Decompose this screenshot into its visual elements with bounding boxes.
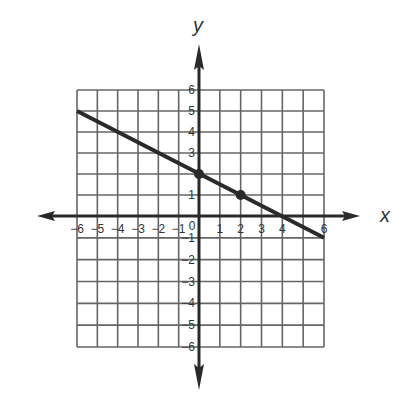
x-tick-label: 2 (237, 222, 244, 236)
y-axis-label: y (191, 14, 204, 36)
x-tick-label: 4 (279, 222, 286, 236)
y-tick-label: 5 (188, 104, 195, 118)
x-tick-label: −4 (111, 222, 125, 236)
y-tick-label: −6 (181, 340, 195, 354)
y-tick-label: −1 (181, 231, 195, 245)
x-tick-label: −2 (151, 222, 165, 236)
x-axis-label: x (379, 204, 391, 226)
x-tick-label: −5 (90, 222, 104, 236)
y-tick-label: 6 (188, 83, 195, 97)
y-tick-label: −3 (181, 275, 195, 289)
data-point (194, 169, 204, 179)
y-tick-label: −4 (181, 296, 195, 310)
x-tick-label: 3 (258, 222, 265, 236)
y-tick-label: −2 (181, 253, 195, 267)
y-tick-label: 4 (188, 125, 195, 139)
x-tick-label: 1 (216, 222, 223, 236)
y-tick-label: 3 (188, 146, 195, 160)
axes (37, 44, 360, 390)
x-tick-label: 6 (321, 222, 328, 236)
coordinate-plane: −6−5−4−3−2−101234665431−1−2−3−4−5−6 x y (0, 0, 413, 413)
x-tick-label: −3 (131, 222, 145, 236)
x-tick-label: −6 (70, 222, 84, 236)
y-tick-label: −5 (181, 318, 195, 332)
y-tick-label: 1 (188, 188, 195, 202)
data-point (236, 190, 246, 200)
